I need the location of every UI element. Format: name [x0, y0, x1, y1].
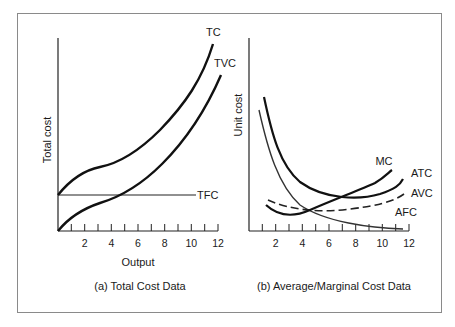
panel-a-y-label: Total cost [41, 117, 53, 163]
panel-b-unit-cost: 2 4 6 8 10 12 Unit cost (b) Average/Marg… [232, 38, 433, 292]
panel-b-y-label: Unit cost [232, 94, 244, 137]
panel-b-tick-4: 4 [299, 237, 305, 249]
panel-a-x-label: Output [121, 256, 154, 268]
panel-b-tick-10: 10 [376, 237, 388, 249]
panel-a-tick-10: 10 [185, 237, 197, 249]
panel-a-tick-2: 2 [82, 237, 88, 249]
atc-label: ATC [411, 167, 432, 179]
afc-label: AFC [395, 206, 417, 218]
panel-b-tick-2: 2 [273, 237, 279, 249]
tfc-label: TFC [197, 189, 218, 201]
tvc-curve [58, 75, 221, 231]
panel-a-tick-6: 6 [135, 237, 141, 249]
panel-b-tick-8: 8 [353, 237, 359, 249]
tvc-label: TVC [214, 57, 236, 69]
panel-a-total-cost: 2 4 6 8 10 12 Output Total cost (a) Tota… [41, 26, 236, 292]
tc-curve [58, 44, 213, 195]
avc-label: AVC [411, 187, 433, 199]
panel-a-caption: (a) Total Cost Data [94, 280, 186, 292]
panel-a-tick-8: 8 [162, 237, 168, 249]
mc-label: MC [375, 155, 392, 167]
panel-a-x-ticks [71, 224, 218, 231]
tc-label: TC [206, 26, 221, 38]
cost-curves-figure: 2 4 6 8 10 12 Output Total cost (a) Tota… [0, 0, 455, 327]
mc-curve [266, 170, 392, 215]
panel-b-caption: (b) Average/Marginal Cost Data [257, 280, 412, 292]
panel-b-tick-12: 12 [403, 237, 415, 249]
atc-curve [264, 97, 403, 198]
panel-a-tick-4: 4 [108, 237, 114, 249]
panel-b-tick-6: 6 [326, 237, 332, 249]
panel-a-tick-12: 12 [212, 237, 224, 249]
